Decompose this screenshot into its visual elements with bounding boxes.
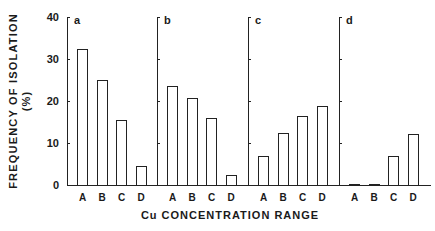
bar-c-D [317, 106, 328, 185]
y-tick-mark [67, 17, 70, 18]
y-tick-mark [248, 59, 251, 60]
y-tick-mark [339, 101, 342, 102]
x-tick-label: B [98, 192, 105, 203]
bar-b-A [167, 86, 178, 185]
bar-a-C [116, 120, 127, 185]
bar-c-B [278, 133, 289, 185]
x-tick-label: C [208, 192, 215, 203]
y-tick-mark [339, 143, 342, 144]
x-tick-label: B [188, 192, 195, 203]
bar-b-B [187, 98, 198, 185]
y-tick-mark [248, 17, 251, 18]
x-tick-label: D [227, 192, 234, 203]
bar-c-C [297, 116, 308, 185]
bar-d-D [408, 134, 419, 185]
y-tick-mark [339, 59, 342, 60]
bar-a-A [77, 49, 88, 185]
y-axis-title: FREQUENCY OF ISOLATION (%) [0, 17, 40, 185]
bar-a-B [97, 80, 108, 185]
bar-b-C [206, 118, 217, 185]
bar-b-D [226, 175, 237, 185]
x-tick-label: B [279, 192, 286, 203]
y-tick-label: 0 [53, 179, 59, 191]
y-axis-unit: (%) [20, 13, 33, 189]
y-tick-mark [67, 101, 70, 102]
panel-label: b [164, 14, 171, 26]
y-tick-mark [248, 143, 251, 144]
y-tick-label: 40 [47, 11, 59, 23]
y-tick-label: 20 [47, 95, 59, 107]
panel-label: c [255, 14, 261, 26]
bar-d-C [388, 156, 399, 185]
x-tick-label: C [299, 192, 306, 203]
x-tick-label: A [79, 192, 86, 203]
panel-label: a [74, 14, 80, 26]
bar-a-D [136, 166, 147, 185]
y-tick-mark [248, 101, 251, 102]
y-tick-mark [67, 59, 70, 60]
bar-c-A [258, 156, 269, 185]
y-tick-mark [339, 17, 342, 18]
x-tick-label: A [351, 192, 358, 203]
y-tick-mark [157, 17, 160, 18]
x-tick-label: C [118, 192, 125, 203]
y-tick-mark [157, 143, 160, 144]
x-tick-label: B [370, 192, 377, 203]
y-axis-label: FREQUENCY OF ISOLATION [7, 13, 20, 189]
bar-chart: FREQUENCY OF ISOLATION (%) 010203040 aAB… [0, 0, 435, 231]
x-tick-label: D [409, 192, 416, 203]
x-axis-title: Cu CONCENTRATION RANGE [140, 209, 320, 221]
x-tick-label: D [137, 192, 144, 203]
x-tick-label: C [390, 192, 397, 203]
y-tick-label: 10 [47, 137, 59, 149]
panel-label: d [346, 14, 353, 26]
y-tick-label: 30 [47, 53, 59, 65]
x-axis-baseline [67, 185, 431, 186]
y-tick-mark [67, 143, 70, 144]
x-tick-label: A [260, 192, 267, 203]
y-tick-mark [157, 101, 160, 102]
y-tick-mark [157, 59, 160, 60]
x-tick-label: A [169, 192, 176, 203]
x-tick-label: D [318, 192, 325, 203]
